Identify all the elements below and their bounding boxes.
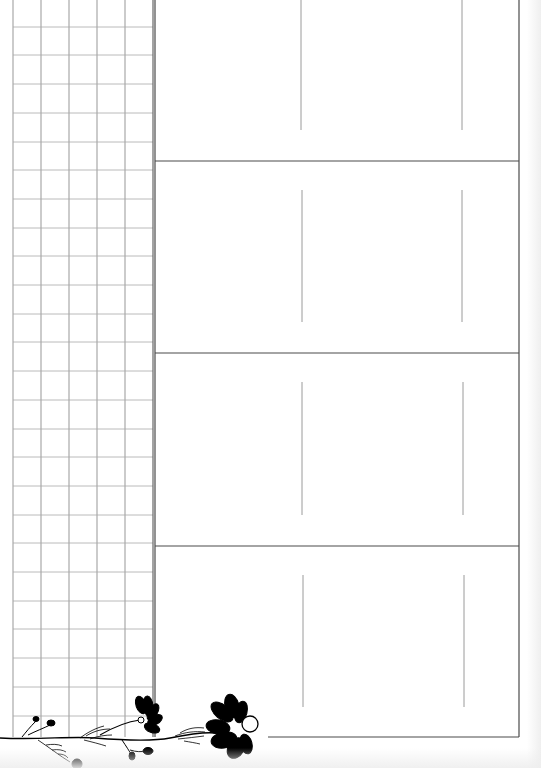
leaf-sprig-icon	[80, 726, 112, 746]
planner-sheet-drawing	[0, 0, 541, 768]
flower-icon	[133, 695, 164, 735]
page-bottom-shadow	[0, 748, 541, 768]
grid-panel	[13, 0, 153, 737]
bud-icon	[47, 720, 55, 726]
planner-page	[0, 0, 541, 768]
page-edge-shadow	[527, 0, 541, 768]
bud-icon	[33, 717, 39, 722]
flower-stem	[100, 720, 140, 735]
